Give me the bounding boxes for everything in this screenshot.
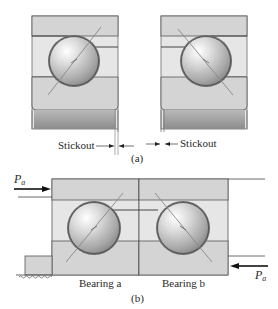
shaft-shoulder [16,256,52,278]
stickout-left-label: Stickout [58,139,95,151]
load-arrow-left [14,186,51,192]
stickout-right-label: Stickout [180,137,217,149]
load-right-label: Pa [254,268,266,283]
caption-b: (b) [131,292,144,305]
arrow-right-icon [42,186,51,192]
stickout-right-dimension [146,142,178,146]
bearing-a-label: Bearing a [79,277,122,289]
ground-hatch-icon [19,276,52,278]
bearing-a [52,179,139,275]
part-a-right-bearing [161,16,247,132]
bearing-b [139,179,228,275]
arrow-left-icon [230,263,239,269]
part-a-left-bearing [32,16,118,132]
bearing-diagram: Stickout Stickout (a) [0,0,278,309]
caption-a: (a) [131,152,144,165]
bearing-b-label: Bearing b [162,277,206,289]
load-left-label: Pa [13,172,25,187]
